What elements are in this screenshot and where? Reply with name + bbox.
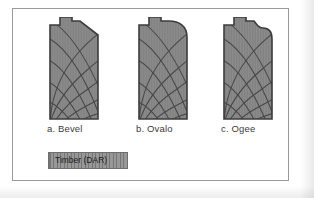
- legend-label: Timber (DAR): [55, 155, 107, 165]
- caption-ogee: c. Ogee: [221, 123, 255, 134]
- profile-ovalo: [135, 17, 197, 123]
- profile-ogee: [220, 17, 282, 123]
- profile-bevel: [46, 17, 108, 123]
- timber-profiles-figure: a. Bevel b. Ovalo c. Ogee Timber (DAR): [0, 0, 314, 198]
- caption-bevel: a. Bevel: [47, 123, 83, 134]
- caption-ovalo: b. Ovalo: [136, 123, 173, 134]
- legend: Timber (DAR): [48, 152, 128, 169]
